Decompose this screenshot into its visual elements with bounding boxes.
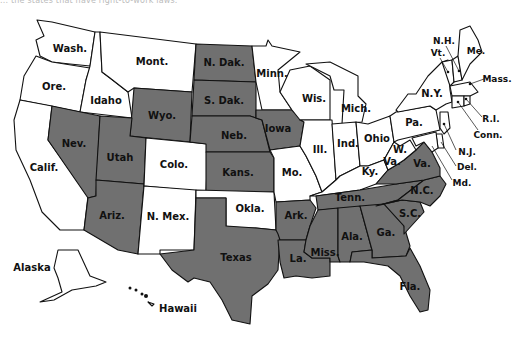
label-calif: Calif. — [30, 162, 59, 173]
label-la: La. — [290, 253, 307, 264]
label-vt: Vt. — [431, 48, 446, 58]
label-del: Del. — [457, 162, 477, 172]
label-iowa: Iowa — [265, 123, 292, 134]
label-alaska: Alaska — [13, 262, 50, 273]
label-ariz: Ariz. — [99, 210, 125, 221]
label-okla: Okla. — [235, 203, 264, 214]
label-sc: S.C. — [399, 208, 421, 219]
label-nev: Nev. — [62, 138, 87, 149]
state-ri[interactable] — [464, 96, 470, 106]
label-colo: Colo. — [160, 159, 188, 170]
label-nh: N.H. — [433, 36, 455, 46]
label-pa: Pa. — [405, 117, 423, 128]
label-nj: N.J. — [458, 147, 476, 157]
label-ny: N.Y. — [421, 88, 443, 99]
label-fla: Fla. — [400, 281, 421, 292]
label-ga: Ga. — [377, 227, 396, 238]
label-mont: Mont. — [136, 56, 169, 67]
label-kans: Kans. — [222, 167, 253, 178]
label-ore: Ore. — [42, 81, 66, 92]
label-sdak: S. Dak. — [204, 95, 244, 106]
label-miss: Miss. — [310, 247, 339, 258]
label-mass: Mass. — [482, 74, 511, 84]
label-wis: Wis. — [302, 93, 326, 104]
state-nj[interactable] — [440, 112, 450, 134]
label-wva-2: Va. — [383, 156, 401, 167]
label-tenn: Tenn. — [335, 192, 365, 203]
state-fla[interactable] — [350, 248, 430, 312]
label-conn: Conn. — [473, 130, 502, 140]
label-texas: Texas — [220, 252, 251, 263]
state-hawaii[interactable] — [129, 287, 155, 307]
label-ala: Ala. — [341, 231, 363, 242]
label-me: Me. — [467, 46, 485, 56]
label-ndak: N. Dak. — [203, 57, 244, 68]
label-wyo: Wyo. — [148, 110, 176, 121]
us-map: Wash. Ore. Calif. Idaho Nev. Mont. Wyo. … — [0, 0, 527, 339]
label-neb: Neb. — [221, 130, 247, 141]
label-hawaii: Hawaii — [159, 303, 197, 314]
state-alaska[interactable] — [40, 250, 106, 302]
label-ind: Ind. — [337, 138, 359, 149]
label-wash: Wash. — [53, 43, 87, 54]
label-nmex: N. Mex. — [147, 211, 190, 222]
label-ri: R.I. — [482, 114, 499, 124]
label-utah: Utah — [107, 152, 134, 163]
label-mich: Mich. — [341, 103, 371, 114]
label-mo: Mo. — [282, 167, 303, 178]
label-nc: N.C. — [410, 185, 433, 196]
label-ohio: Ohio — [364, 133, 390, 144]
label-ark: Ark. — [284, 210, 307, 221]
label-wva-1: W. — [393, 144, 407, 155]
state-mass[interactable] — [450, 82, 478, 96]
label-ky: Ky. — [362, 166, 379, 177]
label-ill: Ill. — [313, 144, 327, 155]
label-md: Md. — [453, 178, 472, 188]
label-va: Va. — [413, 158, 431, 169]
label-minn: Minn. — [256, 68, 287, 79]
label-idaho: Idaho — [90, 95, 122, 106]
